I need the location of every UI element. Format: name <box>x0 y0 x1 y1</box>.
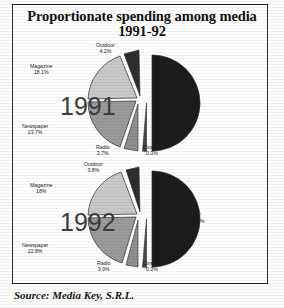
label-tv-1991-pct: 50% <box>190 102 200 108</box>
label-outdoor-1992: Outdoor 3.8% <box>84 161 103 174</box>
pie-chart-1991: 1991 Outdoor 4.2% Magazine 18.1% Newspap… <box>0 44 256 162</box>
pie-chart-1992: 1992 Outdoor 3.8% Magazine 18% Newspaper… <box>0 160 256 278</box>
label-tv-1991: TV 50% <box>190 96 200 109</box>
figure-title-line1: Proportionate spending among media <box>27 8 257 24</box>
label-newspaper-1992: Newspaper 22.8% <box>22 242 48 255</box>
figure-title-line2: 1991-92 <box>0 24 284 39</box>
label-radio-1992: Radio 3.0% <box>97 260 111 273</box>
label-outdoor-1991: Outdoor 4.2% <box>96 42 115 55</box>
label-newspaper-1991: Newspaper 23.7% <box>22 123 48 136</box>
label-newspaper-1991-pct: 23.7% <box>22 129 48 135</box>
label-magazine-1991-pct: 18.1% <box>30 69 53 75</box>
label-radio-1992-pct: 3.0% <box>97 266 111 272</box>
label-tv-1992: TV 51.5% <box>190 212 205 225</box>
label-radio-1991-pct: 3.7% <box>96 150 110 156</box>
label-outdoor-1992-pct: 3.8% <box>84 167 103 173</box>
label-radio-1991: Radio 3.7% <box>96 144 110 157</box>
label-outdoor-1991-pct: 4.2% <box>96 48 115 54</box>
source-caption: Source: Media Key, S.R.L. <box>14 289 134 301</box>
label-magazine-1991: Magazine 18.1% <box>30 63 53 76</box>
year-label-1991: 1991 <box>60 92 116 121</box>
label-cinema-1992-pct: 0.3% <box>143 266 161 272</box>
label-newspaper-1992-pct: 22.8% <box>22 248 48 254</box>
scanned-page: Proportionate spending among media 1991-… <box>0 0 284 308</box>
pie-1992-graphic <box>0 160 256 278</box>
label-cinema-1991: Cinema 0.3% <box>143 144 161 157</box>
pie-1991-graphic <box>0 44 256 162</box>
label-magazine-1992-pct: 18% <box>30 188 53 194</box>
label-tv-1992-pct: 51.5% <box>190 218 205 224</box>
label-magazine-1992: Magazine 18% <box>30 182 53 195</box>
figure-title: Proportionate spending among media 1991-… <box>0 9 284 39</box>
label-cinema-1991-pct: 0.3% <box>143 150 161 156</box>
year-label-1992: 1992 <box>60 208 116 237</box>
label-cinema-1992: Cinema 0.3% <box>143 260 161 273</box>
